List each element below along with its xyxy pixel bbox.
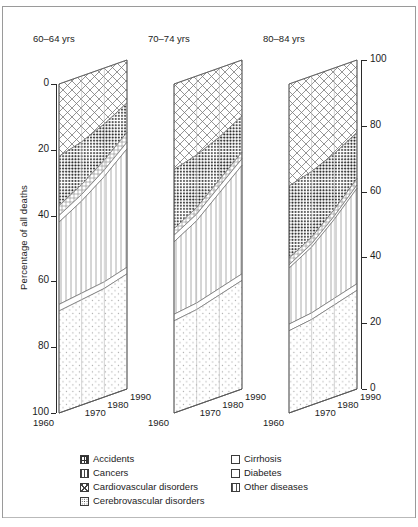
x-tick-label-1970: 1970 [200,407,221,418]
legend-item-cardiovascular-disorders: Cardiovascular disorders [80,480,204,494]
x-tick-label-1980: 1980 [222,399,243,410]
panel-3 [289,60,357,413]
y-axis-right-tick [362,389,367,390]
panel-title-3: 80–84 yrs [263,33,305,44]
y-axis-right-tick [362,126,367,127]
legend-label: Other diseases [244,481,308,493]
y-axis-left-tick [51,216,56,217]
y-axis-left-label: 60 [16,274,49,285]
y-axis-left-tick [51,150,56,151]
y-axis-right-tick [362,192,367,193]
panel-title-1: 60–64 yrs [33,33,75,44]
legend-label: Cardiovascular disorders [93,481,198,493]
y-axis-right-label: 0 [370,382,376,393]
legend-item-accidents: Accidents [80,452,204,466]
x-tick-label-1960: 1960 [148,417,169,428]
y-axis-right-label: 80 [370,119,381,130]
cerebrovascular-swatch-icon [80,497,89,506]
accidents-swatch-icon [80,455,89,464]
figure-bottom-separator [3,517,415,518]
y-axis-right-label: 20 [370,316,381,327]
panel-title-2: 70–74 yrs [148,33,190,44]
legend-label: Diabetes [244,467,282,479]
y-axis-left-label: 80 [16,340,49,351]
plot-area [0,0,418,440]
y-axis-left-tick [51,281,56,282]
legend-label: Accidents [93,453,134,465]
x-tick-label-1990: 1990 [130,391,151,402]
y-axis-left-tick [51,84,56,85]
y-axis-left-tick [51,347,56,348]
y-axis-right-line [361,60,362,389]
x-tick-label-1960: 1960 [33,417,54,428]
panel-2 [174,60,242,413]
legend-column-1: Accidents Cancers Cardiovascular disorde… [80,452,204,508]
legend-item-cerebrovascular-disorders: Cerebrovascular disorders [80,494,204,508]
legend-item-diabetes: Diabetes [231,466,308,480]
legend-item-other-diseases: Other diseases [231,480,308,494]
y-axis-left-tick [51,413,56,414]
cancers-swatch-icon [80,469,89,478]
cirrhosis-swatch-icon [231,455,240,464]
legend-label: Cerebrovascular disorders [93,495,204,507]
x-tick-label-1970: 1970 [85,407,106,418]
legend-label: Cirrhosis [244,453,281,465]
y-axis-right-tick [362,257,367,258]
y-axis-left-line [56,84,57,413]
y-axis-right-label: 100 [370,53,387,64]
y-axis-left-label: 100 [16,406,49,417]
legend-label: Cancers [93,467,128,479]
legend-item-cancers: Cancers [80,466,204,480]
legend-column-2: Cirrhosis Diabetes Other diseases [231,452,308,494]
cardiovascular-swatch-icon [80,483,89,492]
x-tick-label-1980: 1980 [337,399,358,410]
x-tick-label-1990: 1990 [245,391,266,402]
y-axis-left-label: 20 [16,143,49,154]
y-axis-right-tick [362,323,367,324]
y-axis-left-label: 40 [16,209,49,220]
diabetes-swatch-icon [231,469,240,478]
y-axis-right-tick [362,60,367,61]
y-axis-right-label: 60 [370,185,381,196]
legend-item-cirrhosis: Cirrhosis [231,452,308,466]
x-tick-label-1960: 1960 [263,417,284,428]
other-diseases-swatch-icon [231,483,240,492]
panel-1 [59,60,127,413]
x-tick-label-1970: 1970 [315,407,336,418]
y-axis-right-label: 40 [370,250,381,261]
y-axis-left-label: 0 [16,77,49,88]
x-tick-label-1980: 1980 [107,399,128,410]
chart-figure: Percentage of all deaths [0,0,418,527]
